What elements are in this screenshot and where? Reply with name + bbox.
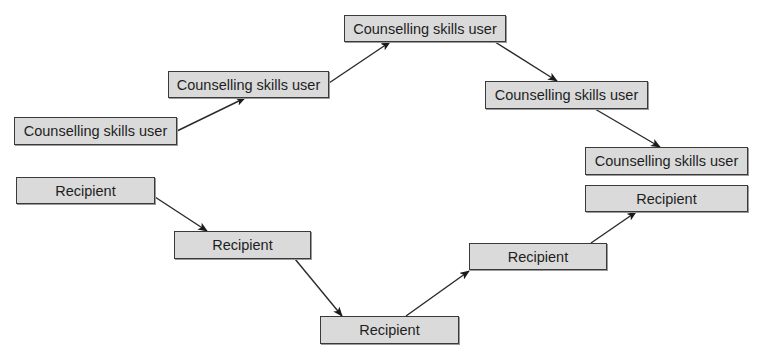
arrow-csu3-to-csu4 bbox=[495, 42, 557, 81]
counsellor-node-4: Counselling skills user bbox=[485, 81, 648, 109]
arrow-r2-to-r3 bbox=[295, 259, 342, 316]
node-label: Recipient bbox=[359, 322, 419, 338]
recipient-node-2: Recipient bbox=[174, 231, 311, 259]
node-label: Recipient bbox=[508, 249, 568, 265]
recipient-node-3: Recipient bbox=[320, 316, 459, 344]
recipient-node-5: Recipient bbox=[585, 185, 748, 212]
diagram-canvas: Counselling skills user Counselling skil… bbox=[0, 0, 765, 361]
counsellor-node-3: Counselling skills user bbox=[344, 15, 506, 42]
arrow-r3-to-r4 bbox=[406, 271, 469, 316]
node-label: Counselling skills user bbox=[495, 87, 638, 103]
node-label: Counselling skills user bbox=[177, 77, 320, 93]
recipient-node-4: Recipient bbox=[469, 243, 607, 270]
node-label: Recipient bbox=[212, 237, 272, 253]
node-label: Counselling skills user bbox=[595, 153, 738, 169]
arrow-r4-to-r5 bbox=[591, 212, 636, 243]
arrow-csu1-to-csu2 bbox=[177, 98, 245, 131]
node-label: Recipient bbox=[636, 191, 696, 207]
node-label: Recipient bbox=[55, 183, 115, 199]
counsellor-node-2: Counselling skills user bbox=[168, 71, 329, 98]
recipient-node-1: Recipient bbox=[16, 177, 155, 204]
arrow-csu2-to-csu3 bbox=[329, 42, 390, 83]
counsellor-node-1: Counselling skills user bbox=[14, 117, 177, 145]
counsellor-node-5: Counselling skills user bbox=[585, 147, 748, 175]
node-label: Counselling skills user bbox=[24, 123, 167, 139]
arrow-r1-to-r2 bbox=[155, 197, 207, 231]
arrow-csu4-to-csu5 bbox=[595, 109, 660, 147]
node-label: Counselling skills user bbox=[353, 21, 496, 37]
